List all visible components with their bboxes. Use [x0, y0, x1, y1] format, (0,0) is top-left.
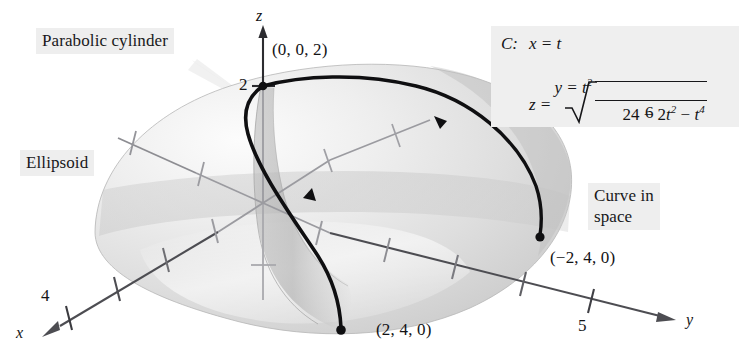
numerator-part-b: − [676, 105, 694, 124]
numerator-exp-b: 4 [699, 103, 705, 115]
label-parabolic-cylinder: Parabolic cylinder [36, 28, 174, 54]
axis-label-z: z [256, 8, 262, 24]
equation-x: x = t [529, 35, 561, 53]
z-axis-arrowhead [258, 25, 267, 38]
label-curve-in-space: Curve in space [588, 183, 660, 230]
equation-z-lhs: z = [529, 96, 551, 114]
equation-curve-name: C: [501, 35, 518, 53]
equation-z-denominator: 6 [645, 104, 654, 122]
y-axis-arrowhead [656, 312, 676, 322]
curve-equation-box: C: x = t y = t2 z = 24 − 2t2 − t4 6 [491, 26, 739, 127]
tick-label-x-4: 4 [41, 287, 50, 304]
point-dot-0-0-2 [259, 82, 268, 91]
axis-label-x: x [16, 325, 23, 341]
point-label-0-0-2: (0, 0, 2) [272, 40, 328, 59]
point-label-neg2-4-0: (−2, 4, 0) [550, 248, 615, 267]
figure-3d-space-curve: Parabolic cylinder Ellipsoid Curve in sp… [0, 0, 754, 351]
tick-label-y-5: 5 [578, 317, 587, 334]
point-label-2-4-0: (2, 4, 0) [376, 320, 432, 339]
radical-sign [563, 78, 597, 124]
point-dot-2-4-0 [336, 325, 346, 335]
label-ellipsoid: Ellipsoid [20, 150, 94, 176]
point-dot-neg2-4-0 [535, 232, 544, 241]
x-axis-arrowhead [42, 321, 60, 337]
tick-label-z-2: 2 [239, 76, 248, 93]
axis-label-y: y [686, 312, 693, 328]
